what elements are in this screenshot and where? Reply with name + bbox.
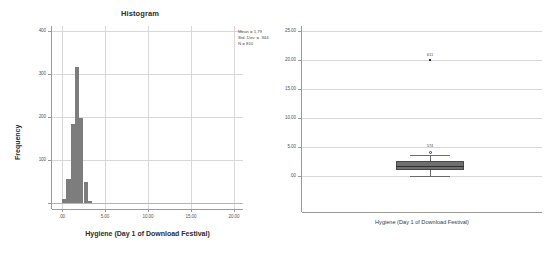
histogram-y-tick-label: 400 <box>26 28 46 33</box>
histogram-plot-area <box>52 26 243 209</box>
boxplot-extreme-outlier-point <box>429 59 431 61</box>
histogram-gridline-x20 <box>234 26 235 209</box>
histogram-y-axis-line <box>51 26 52 209</box>
histogram-x-tick-20 <box>234 209 235 212</box>
boxplot-category-label: Hygiene (Day 1 of Download Festival) <box>302 219 542 225</box>
histogram-baseline <box>52 203 243 204</box>
boxplot-y-axis-line <box>301 26 302 212</box>
histogram-x-tick-0 <box>62 209 63 212</box>
boxplot-y-tick-5 <box>298 147 301 148</box>
boxplot-outlier-label-611: 611 <box>410 52 450 57</box>
boxplot-lower-whisker-cap <box>410 176 450 177</box>
histogram-y-tick-label: 100 <box>26 157 46 162</box>
histogram-x-tick-label: 5.00 <box>91 214 119 219</box>
boxplot-mild-outlier-point <box>429 151 432 154</box>
boxplot-y-tick-10 <box>298 118 301 119</box>
histogram-x-tick-10 <box>148 209 149 212</box>
spss-output-page: Histogram Frequency <box>0 0 557 260</box>
histogram-y-tick-0 <box>48 203 51 204</box>
boxplot-y-tick-0 <box>298 176 301 177</box>
histogram-x-axis-title: Hygiene (Day 1 of Download Festival) <box>52 230 243 237</box>
histogram-x-tick-label: 20.00 <box>220 214 248 219</box>
histogram-panel: Histogram Frequency <box>0 0 280 260</box>
boxplot-y-tick-label: 5.00 <box>276 144 296 149</box>
histogram-x-tick-label: 10.00 <box>134 214 162 219</box>
boxplot-panel: 611 574 25.00 20.00 15.00 10.0 <box>280 0 557 260</box>
boxplot-y-tick-15 <box>298 89 301 90</box>
boxplot-outlier-label-574: 574 <box>410 143 450 148</box>
boxplot-y-tick-label: .00 <box>276 173 296 178</box>
histogram-x-tick-label: .00 <box>48 214 76 219</box>
histogram-gridline-x15 <box>191 26 192 209</box>
histogram-stats-annotation: Mean = 1.79 Std. Dev. = .944 N = 810 <box>238 29 269 48</box>
histogram-y-tick-200 <box>48 117 51 118</box>
boxplot-gridline-10 <box>302 118 542 119</box>
histogram-x-tick-15 <box>191 209 192 212</box>
boxplot-y-tick-label: 20.00 <box>276 57 296 62</box>
boxplot-y-tick-25 <box>298 31 301 32</box>
boxplot-gridline-15 <box>302 89 542 90</box>
histogram-gridline-x0 <box>62 26 63 209</box>
histogram-bar <box>84 182 88 203</box>
boxplot-y-tick-20 <box>298 60 301 61</box>
boxplot-median-line <box>396 166 464 167</box>
histogram-y-tick-label: 300 <box>26 71 46 76</box>
boxplot-gridline-25 <box>302 31 542 32</box>
histogram-y-tick-label: 200 <box>26 114 46 119</box>
histogram-y-tick-400 <box>48 31 51 32</box>
boxplot-y-tick-label: 10.00 <box>276 115 296 120</box>
histogram-gridline-x10 <box>148 26 149 209</box>
histogram-y-tick-100 <box>48 160 51 161</box>
boxplot-x-axis-line <box>302 212 542 213</box>
histogram-stat-n: N = 810 <box>238 41 269 47</box>
boxplot-plot-area: 611 574 <box>302 26 542 212</box>
histogram-x-tick-label: 15.00 <box>177 214 205 219</box>
boxplot-y-tick-label: 25.00 <box>276 28 296 33</box>
histogram-y-axis-title: Frequency <box>14 125 21 160</box>
histogram-x-tick-5 <box>105 209 106 212</box>
histogram-title: Histogram <box>40 9 240 18</box>
histogram-gridline-x5 <box>105 26 106 209</box>
boxplot-gridline-20 <box>302 60 542 61</box>
boxplot-y-tick-label: 15.00 <box>276 86 296 91</box>
histogram-y-tick-300 <box>48 74 51 75</box>
